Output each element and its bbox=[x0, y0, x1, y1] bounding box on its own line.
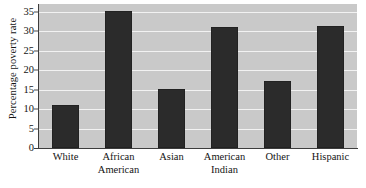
x-label: AfricanAmerican bbox=[98, 151, 139, 176]
x-label: White bbox=[53, 151, 79, 164]
x-axis-line bbox=[34, 148, 358, 149]
x-axis-category-labels: WhiteAfricanAmericanAsianAmericanIndianO… bbox=[39, 151, 357, 187]
bar bbox=[105, 11, 132, 148]
bar bbox=[158, 89, 185, 148]
bar bbox=[264, 81, 291, 148]
bar bbox=[317, 26, 344, 148]
y-axis-line bbox=[38, 4, 39, 149]
x-label: Other bbox=[266, 151, 290, 164]
y-tick-label-20: 20 bbox=[24, 65, 35, 75]
y-tick-label-35: 35 bbox=[24, 7, 35, 17]
y-tick-label-10: 10 bbox=[24, 104, 35, 114]
x-label: Asian bbox=[159, 151, 184, 164]
x-label: AmericanIndian bbox=[204, 151, 245, 176]
bar-chart: Percentage poverty rate 05101520253035 W… bbox=[0, 0, 366, 188]
y-tick-label-30: 30 bbox=[24, 26, 35, 36]
bars-group bbox=[39, 4, 357, 148]
bar bbox=[211, 27, 238, 148]
y-tick-label-25: 25 bbox=[24, 46, 35, 56]
plot-area bbox=[39, 4, 357, 148]
x-label: Hispanic bbox=[312, 151, 349, 164]
bar bbox=[52, 105, 79, 148]
y-tick-label-15: 15 bbox=[24, 85, 35, 95]
y-axis-tick-labels: 05101520253035 bbox=[16, 4, 34, 148]
